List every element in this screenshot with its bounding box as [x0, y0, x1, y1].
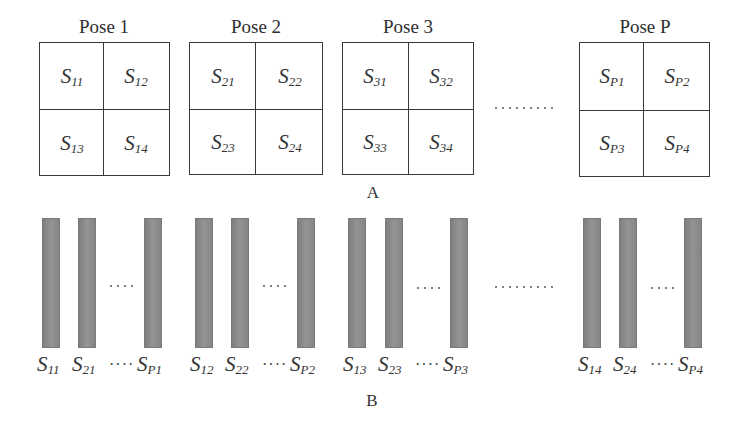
bar-s13	[348, 218, 366, 348]
pose-2-cell-23: S23	[211, 130, 235, 156]
bar-label-s13: S13	[343, 352, 367, 378]
pose-1-cell-14: S14	[124, 131, 148, 157]
bar-label-ellipsis: ····	[415, 356, 440, 374]
bar-s22	[231, 218, 249, 348]
section-b-label: B	[366, 391, 377, 411]
pose-2-grid: S21 S22 S23 S24	[189, 42, 323, 175]
section-a-label: A	[367, 183, 379, 203]
pose-p-grid: SP1 SP2 SP3 SP4	[579, 42, 710, 177]
group-1-ellipsis	[110, 285, 136, 289]
pose-p-cell-p1: SP1	[600, 64, 625, 90]
bar-s14	[583, 218, 601, 348]
pose-3-title: Pose 3	[338, 16, 478, 38]
grid-divider	[190, 109, 322, 110]
group-p-ellipsis	[651, 287, 677, 291]
pose-1-cell-13: S13	[60, 131, 84, 157]
pose-3-cell-34: S34	[429, 130, 453, 156]
bar-s23	[385, 218, 403, 348]
pose-p-cell-p4: SP4	[665, 131, 690, 157]
pose-3-grid: S31 S32 S33 S34	[342, 42, 474, 175]
pose-2-cell-24: S24	[278, 130, 302, 156]
pose-p-title: Pose P	[575, 16, 715, 38]
bar-label-s22: S22	[225, 352, 249, 378]
bar-label-s12: S12	[190, 352, 214, 378]
group-2-ellipsis	[263, 285, 289, 289]
pose-3-cell-32: S32	[429, 64, 453, 90]
pose-3-cell-31: S31	[363, 64, 387, 90]
bar-s12	[195, 218, 213, 348]
bar-label-ellipsis: ····	[262, 356, 287, 374]
bar-s11	[42, 218, 60, 348]
bar-label-ellipsis: ····	[650, 356, 675, 374]
pose-2-cell-21: S21	[211, 64, 235, 90]
group-gap-ellipsis	[495, 286, 555, 290]
pose-1-cell-12: S12	[124, 64, 148, 90]
bar-label-sp3: SP3	[443, 352, 468, 378]
bar-sp1	[144, 218, 162, 348]
bar-s21	[78, 218, 96, 348]
pose-2-cell-22: S22	[278, 64, 302, 90]
bar-label-sp2: SP2	[290, 352, 315, 378]
bar-label-s24: S24	[613, 352, 637, 378]
bar-s24	[619, 218, 637, 348]
bar-label-sp1: SP1	[137, 352, 162, 378]
bar-sp3	[450, 218, 468, 348]
pose-p-cell-p2: SP2	[665, 64, 690, 90]
bar-label-s11: S11	[37, 352, 60, 378]
grid-divider	[343, 109, 473, 110]
grid-divider	[40, 109, 169, 110]
bar-label-s14: S14	[578, 352, 602, 378]
bar-label-s23: S23	[378, 352, 402, 378]
group-3-ellipsis	[417, 287, 443, 291]
pose-p-cell-p3: SP3	[600, 131, 625, 157]
bar-label-s21: S21	[72, 352, 96, 378]
pose-2-title: Pose 2	[186, 16, 326, 38]
pose-1-title: Pose 1	[34, 16, 174, 38]
bar-sp2	[297, 218, 315, 348]
pose-1-cell-11: S11	[61, 64, 84, 90]
bar-label-ellipsis: ····	[109, 356, 134, 374]
bar-sp4	[684, 218, 702, 348]
bar-label-sp4: SP4	[678, 352, 703, 378]
pose-gap-ellipsis	[495, 107, 555, 111]
pose-3-cell-33: S33	[363, 130, 387, 156]
pose-1-grid: S11 S12 S13 S14	[39, 42, 170, 176]
grid-divider	[580, 110, 709, 111]
